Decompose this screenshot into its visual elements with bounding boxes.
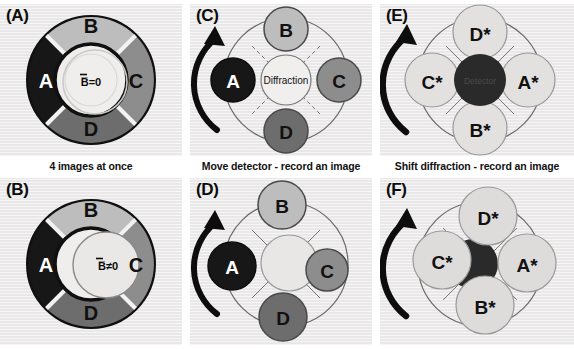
gap-col-1 [182,0,190,349]
rotation-arrow-f [383,221,406,316]
disc-label-d-b: B [275,196,289,217]
rotation-arrowhead-e [396,24,417,45]
segment-label-d: D [84,118,98,140]
figure-root: (A) A B C D B̅=0 [0,0,574,349]
disc-label-f-a: A* [516,255,538,276]
panel-f: (F) C* D* A* B* [380,178,574,345]
panel-b-label: (B) [6,180,28,200]
disc-label-c-b: B [279,20,293,41]
disc-label-f-b: B* [474,297,496,318]
center-text-c: Diffraction [264,75,309,86]
panel-e: (E) Detector C* D* A* B* [380,4,574,156]
center-text-a: B̅=0 [81,76,102,88]
segment-label-c: C [129,70,143,92]
caption-column1: 4 images at once [0,160,182,172]
segment-label-b-b: B [84,199,98,221]
disc-label-e-d: D* [469,24,491,45]
panel-c-graphic: Diffraction A B C D [190,4,372,156]
panel-a-graphic: A B C D B̅=0 [0,4,182,156]
disc-label-d-c: C [320,261,334,282]
disc-label-d-a: A [225,257,239,278]
segment-label-b-d: D [84,302,98,324]
panel-f-graphic: C* D* A* B* [380,178,574,345]
disc-label-f-c: C* [431,252,453,273]
rotation-arrowhead-c [204,26,225,46]
disc-label-e-a: A* [517,72,539,93]
panel-c: (C) Diffraction A B C D [190,4,372,156]
panel-d: (D) A B C D [190,178,372,345]
panel-d-label: (D) [196,180,218,200]
gap-top [0,0,574,4]
center-text-b: B̅≠0 [98,260,118,272]
segment-label-b-c: C [129,254,143,276]
disc-label-c-c: C [332,71,346,92]
gap-bottom [0,345,574,349]
disc-label-e-c: C* [421,72,443,93]
panel-b: (B) A B C D B̅≠0 [0,178,182,345]
panel-f-label: (F) [386,180,407,200]
center-text-e: Detector [464,76,496,86]
disc-label-e-b: B* [469,120,491,141]
panel-e-graphic: Detector C* D* A* B* [380,4,574,156]
panel-e-label: (E) [386,6,407,26]
gap-col-2 [372,0,380,349]
disc-label-c-d: D [279,122,293,143]
rotation-arrowhead-d [204,210,225,230]
segment-label-a: A [39,70,53,92]
disc-label-d-d: D [276,308,290,329]
rotation-arrow-e [383,37,406,132]
panel-a-label: (A) [6,6,28,26]
panel-b-graphic: A B C D B̅≠0 [0,178,182,345]
disc-label-c-a: A [226,71,240,92]
disc-label-f-d: D* [477,208,499,229]
caption-column2: Move detector - record an image [190,160,372,172]
segment-label-b-a: A [39,254,53,276]
panel-d-graphic: A B C D [190,178,372,345]
rotation-arrowhead-f [396,208,417,229]
caption-column3: Shift diffraction - record an image [380,160,574,172]
segment-label-b: B [84,15,98,37]
panel-a: (A) A B C D B̅=0 [0,4,182,156]
panel-c-label: (C) [196,6,218,26]
